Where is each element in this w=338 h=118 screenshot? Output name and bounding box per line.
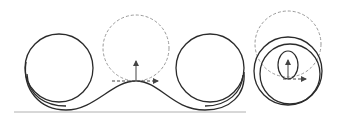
diagram-canvas — [0, 0, 338, 118]
hump-curve — [136, 72, 244, 110]
right-loop — [176, 34, 244, 102]
left-loop — [25, 34, 136, 110]
side-panel — [254, 11, 322, 105]
side-loop-inner — [260, 44, 320, 104]
track-diagram — [0, 0, 338, 118]
